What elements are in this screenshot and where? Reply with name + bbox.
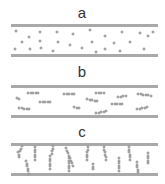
chain-particle	[149, 94, 152, 97]
chain-particle	[146, 106, 149, 109]
panel-c-bottom-plate	[11, 173, 158, 176]
chain-particle	[37, 92, 40, 95]
chain-particle	[78, 107, 81, 110]
chain-particle	[147, 162, 150, 165]
chain-particle	[49, 167, 52, 170]
particle	[39, 40, 42, 43]
particle	[91, 41, 94, 44]
particle	[28, 36, 31, 39]
chain-particle	[105, 158, 108, 161]
panel-a-label: a	[78, 5, 86, 20]
particle	[72, 33, 75, 36]
panel-b-bottom-plate	[11, 115, 158, 118]
chain-particle	[18, 98, 21, 101]
chain-particle	[68, 169, 71, 172]
chain-particle	[124, 94, 127, 97]
particle	[52, 50, 55, 53]
particle	[104, 48, 107, 51]
chain-particle	[105, 110, 108, 113]
particle	[129, 41, 132, 44]
particle	[69, 44, 72, 47]
particle	[15, 30, 18, 33]
chain-particle	[129, 158, 132, 161]
particle	[21, 41, 24, 44]
particle	[56, 31, 59, 34]
particle	[14, 48, 17, 51]
particle	[119, 50, 122, 53]
particle	[89, 29, 92, 32]
chain-particle	[27, 172, 30, 175]
chain-particle	[136, 171, 139, 174]
chain-particle	[18, 156, 21, 159]
panel-a-bottom-plate	[11, 54, 158, 57]
chain-particle	[72, 164, 75, 167]
particle	[39, 31, 42, 34]
chain-particle	[92, 168, 95, 171]
particle	[104, 35, 107, 38]
panel-b-label: b	[78, 64, 86, 79]
panel-c-label: c	[78, 124, 86, 139]
panel-b-top-plate	[11, 85, 158, 88]
chain-particle	[102, 92, 105, 95]
panel-a-top-plate	[11, 24, 158, 27]
particle	[121, 31, 124, 34]
chain-particle	[121, 103, 124, 106]
chain-particle	[85, 158, 88, 161]
particle	[81, 47, 84, 50]
particle	[152, 31, 155, 34]
particle	[113, 42, 116, 45]
chain-particle	[118, 169, 121, 172]
particle	[139, 32, 142, 35]
particle	[143, 48, 146, 51]
chain-particle	[73, 93, 76, 96]
chain-particle	[96, 100, 99, 103]
particle	[29, 48, 32, 51]
particle	[40, 47, 43, 50]
particle	[147, 35, 150, 38]
particle	[57, 41, 60, 44]
chain-particle	[49, 101, 52, 104]
particle	[95, 51, 98, 54]
chain-particle	[28, 108, 31, 111]
chain-particle	[34, 158, 37, 161]
